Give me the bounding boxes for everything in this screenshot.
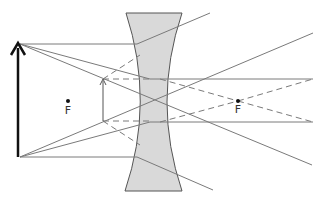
ray-diagram: F F [0, 0, 321, 202]
focal-label-left: F [65, 105, 71, 116]
image-arrow [100, 79, 106, 121]
focal-point-left [66, 99, 70, 103]
ray-diagram-canvas [0, 0, 321, 202]
virtual-rays [103, 55, 313, 145]
object-arrow [11, 43, 25, 157]
focal-label-right: F [235, 104, 241, 115]
